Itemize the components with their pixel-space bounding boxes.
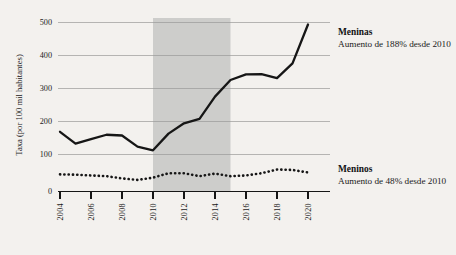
- y-tick-label-400: 400: [40, 51, 52, 60]
- x-tick-label-2020: 2020: [304, 203, 313, 221]
- annotation-meninos-title: Meninos: [338, 164, 373, 174]
- x-tick-label-2014: 2014: [211, 203, 220, 221]
- x-tick-label-2010: 2010: [149, 203, 158, 221]
- x-tick-label-2016: 2016: [242, 203, 251, 221]
- line-chart-svg: 500 400 300 200 100 0 Taxa (por 100 mil …: [0, 0, 456, 255]
- x-tick-label-2008: 2008: [118, 203, 127, 221]
- y-tick-label-300: 300: [40, 84, 52, 93]
- annotation-meninos-subtitle: Aumento de 48% desde 2010: [338, 176, 447, 186]
- y-tick-label-500: 500: [40, 18, 52, 27]
- x-axis-tick-labels: 2004 2006 2008 2010 2012 2014 2016 2018 …: [56, 203, 313, 221]
- x-tick-label-2018: 2018: [273, 203, 282, 221]
- annotation-meninas-subtitle: Aumento de 188% desde 2010: [338, 39, 451, 49]
- annotation-meninas-title: Meninas: [338, 27, 373, 37]
- chart-figure: 500 400 300 200 100 0 Taxa (por 100 mil …: [0, 0, 456, 255]
- x-tick-label-2004: 2004: [56, 203, 65, 221]
- shaded-band-2010-2015: [153, 18, 231, 191]
- x-tick-label-2006: 2006: [87, 203, 96, 221]
- y-tick-label-0: 0: [48, 187, 52, 196]
- y-tick-label-100: 100: [40, 150, 52, 159]
- y-axis-title: Taxa (por 100 mil habitantes): [14, 54, 24, 156]
- x-tick-label-2012: 2012: [180, 203, 189, 221]
- y-tick-label-200: 200: [40, 117, 52, 126]
